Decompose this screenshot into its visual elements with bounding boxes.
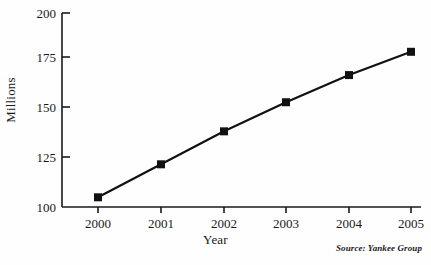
x-tick-label-2000: 2000 [85, 216, 111, 231]
series-line-millions [98, 52, 411, 198]
data-point-marker [94, 193, 102, 201]
line-chart-plot: 200 175 150 125 100 2000 2001 2002 2003 … [0, 0, 431, 265]
y-tick-label-200: 200 [37, 6, 57, 21]
y-tick-label-100: 100 [37, 200, 57, 215]
data-point-marker [345, 71, 353, 79]
y-tick-label-175: 175 [37, 50, 57, 65]
x-tick-label-2001: 2001 [148, 216, 174, 231]
y-tick-label-150: 150 [37, 100, 57, 115]
source-note: Source: Yankee Group [336, 243, 422, 253]
chart-figure: 200 175 150 125 100 2000 2001 2002 2003 … [0, 0, 431, 265]
y-axis-ticks [62, 13, 70, 157]
data-point-marker [220, 127, 228, 135]
y-tick-label-125: 125 [37, 150, 57, 165]
chart-axes [62, 13, 421, 207]
x-tick-label-2004: 2004 [336, 216, 363, 231]
x-axis-tick-labels: 2000 2001 2002 2003 2004 2005 [85, 216, 424, 231]
data-point-marker [157, 160, 165, 168]
x-tick-label-2002: 2002 [211, 216, 237, 231]
x-axis-ticks [98, 207, 411, 213]
y-axis-title: Millions [3, 70, 19, 130]
data-point-marker [407, 48, 415, 56]
data-series-millions [94, 48, 415, 202]
data-point-marker [282, 98, 290, 106]
x-tick-label-2003: 2003 [273, 216, 299, 231]
series-markers-millions [94, 48, 415, 202]
y-axis-tick-labels: 200 175 150 125 100 [37, 6, 57, 215]
x-tick-label-2005: 2005 [398, 216, 424, 231]
